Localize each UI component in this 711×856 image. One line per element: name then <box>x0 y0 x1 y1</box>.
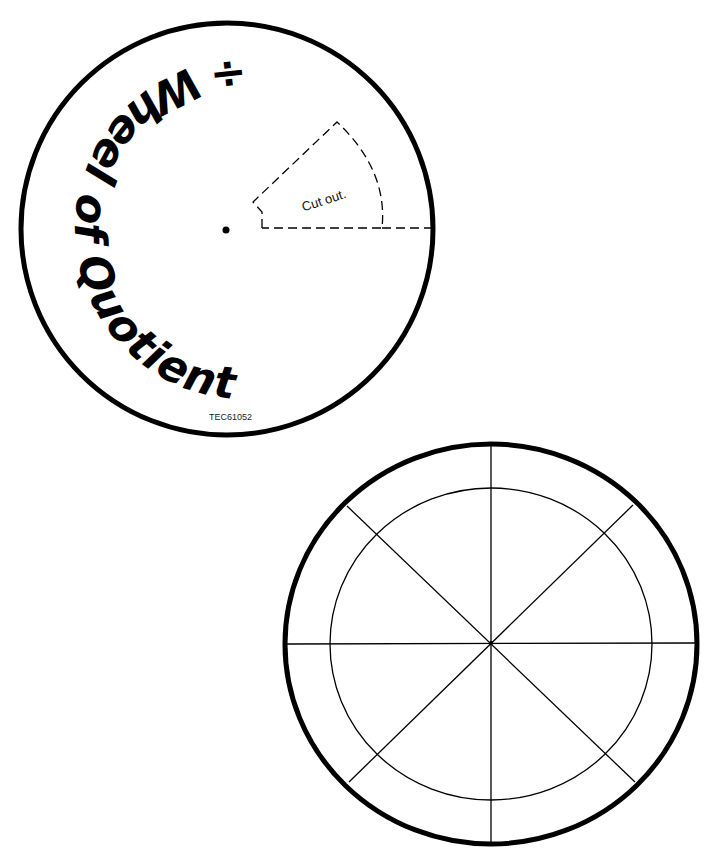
center-pivot-dot <box>223 227 230 234</box>
bottom-center-dot <box>489 641 493 645</box>
worksheet-page: ÷ Wheel of Quotients ÷ Cut out. TEC61052 <box>0 0 711 856</box>
bottom-wheel <box>285 444 697 844</box>
product-code: TEC61052 <box>209 412 252 422</box>
top-wheel: ÷ Wheel of Quotients ÷ Cut out. TEC61052 <box>0 0 433 435</box>
